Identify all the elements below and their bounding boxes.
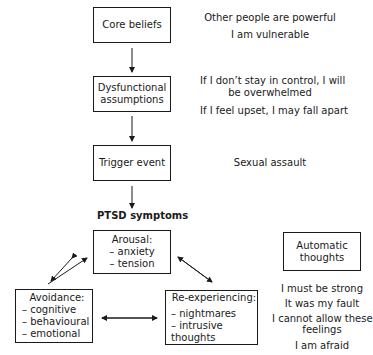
core-belief-2: I am vulnerable — [200, 29, 340, 41]
avoidance-item-1: – cognitive — [22, 304, 76, 316]
automatic-thoughts-title-1: Automatic — [296, 240, 347, 252]
core-beliefs-label: Core beliefs — [102, 19, 161, 31]
trigger-event-box: Trigger event — [93, 145, 171, 181]
arousal-title: Arousal: — [112, 234, 153, 246]
automatic-thought-2: It was my fault — [272, 298, 372, 310]
assumptions-label-line-2: assumptions — [100, 94, 163, 106]
trigger-annotation: Sexual assault — [200, 157, 340, 169]
arousal-item-2: – tension — [109, 258, 154, 270]
arrow-reexperiencing-arousal — [178, 257, 212, 282]
dysfunctional-assumptions-box: Dysfunctional assumptions — [93, 76, 171, 112]
arousal-box: Arousal: – anxiety – tension — [93, 230, 171, 274]
arrow-avoidance-arousal — [48, 258, 87, 284]
assumption-1-line-1: If I don’t stay in control, I will — [200, 75, 340, 87]
avoidance-item-3: – emotional — [22, 328, 80, 340]
automatic-thought-1: I must be strong — [272, 283, 372, 295]
assumptions-label-line-1: Dysfunctional — [98, 82, 167, 94]
reexperiencing-item-2: – intrusive thoughts — [171, 320, 257, 344]
automatic-thoughts-title-2: thoughts — [300, 252, 345, 264]
reexperiencing-title: Re-experiencing: — [172, 292, 256, 304]
assumption-1-line-2: be overwhelmed — [200, 87, 340, 99]
automatic-thoughts-box: Automatic thoughts — [283, 232, 361, 271]
trigger-event-label: Trigger event — [99, 157, 165, 169]
avoidance-title: Avoidance: — [30, 292, 85, 304]
avoidance-box: Avoidance: – cognitive – behavioural – e… — [15, 289, 93, 343]
automatic-thought-4: I am afraid — [272, 340, 372, 352]
core-beliefs-box: Core beliefs — [93, 7, 171, 43]
reexperiencing-item-1: – nightmares — [171, 308, 236, 320]
automatic-thought-3-line-2: feelings — [272, 324, 372, 336]
core-belief-1: Other people are powerful — [200, 12, 340, 24]
ptsd-symptoms-heading: PTSD symptoms — [97, 210, 188, 221]
assumption-2: If I feel upset, I may fall apart — [200, 105, 340, 117]
avoidance-item-2: – behavioural — [22, 316, 89, 328]
reexperiencing-box: Re-experiencing: – nightmares – intrusiv… — [165, 290, 258, 345]
arousal-item-1: – anxiety — [109, 246, 154, 258]
